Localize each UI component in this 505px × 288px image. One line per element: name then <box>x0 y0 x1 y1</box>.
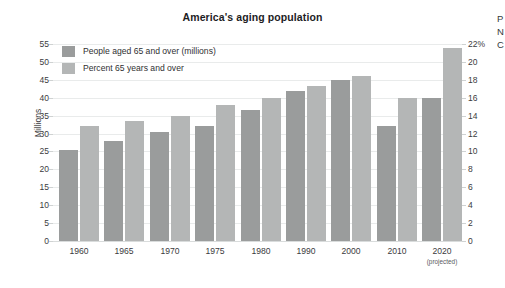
x-tick-year: 2020 <box>432 246 451 256</box>
bar-millions <box>422 98 441 241</box>
y-tick-left: 10 <box>25 201 49 209</box>
chart-legend: People aged 65 and over (millions) Perce… <box>62 44 216 78</box>
y-tick-right: 20 <box>468 58 498 66</box>
y-tick-left: 50 <box>25 58 49 66</box>
y-tick-left: 5 <box>25 219 49 227</box>
bar-group <box>422 44 462 241</box>
bar-millions <box>286 91 305 241</box>
y-tick-left: 15 <box>25 183 49 191</box>
y-tick-mark-right <box>462 80 466 81</box>
x-tick-label: 2020(projected) <box>407 246 477 267</box>
y-tick-left: 30 <box>25 130 49 138</box>
y-tick-right: 14 <box>468 112 498 120</box>
y-tick-left: 20 <box>25 165 49 173</box>
chart-title: America's aging population <box>0 11 505 23</box>
y-tick-mark-right <box>462 151 466 152</box>
y-tick-mark-right <box>462 44 466 45</box>
clipped-caption-line-1: P <box>497 12 505 25</box>
y-tick-mark-right <box>462 62 466 63</box>
clipped-caption-line-3: C <box>497 38 505 51</box>
y-tick-left: 0 <box>25 237 49 245</box>
x-tick-year: 1965 <box>114 246 133 256</box>
y-tick-right: 10 <box>468 147 498 155</box>
legend-label-millions: People aged 65 and over (millions) <box>83 46 216 57</box>
y-tick-mark-left <box>49 169 53 170</box>
x-tick-year: 1960 <box>69 246 88 256</box>
y-tick-right: 6 <box>468 183 498 191</box>
legend-item: Percent 65 years and over <box>62 61 216 76</box>
bar-millions <box>241 110 260 241</box>
x-tick-year: 1980 <box>251 246 270 256</box>
legend-label-percent: Percent 65 years and over <box>83 63 184 74</box>
bar-percent <box>262 98 281 241</box>
x-tick-year: 1990 <box>296 246 315 256</box>
y-tick-mark-right <box>462 187 466 188</box>
bar-percent <box>125 121 144 241</box>
bar-percent <box>398 98 417 241</box>
bar-percent <box>352 76 371 241</box>
y-tick-right: 8 <box>468 165 498 173</box>
x-tick-note: (projected) <box>407 257 477 267</box>
legend-swatch-percent <box>62 63 75 74</box>
y-tick-right: 12 <box>468 130 498 138</box>
bar-percent <box>443 48 462 241</box>
bar-millions <box>331 80 350 241</box>
gridline <box>53 241 462 242</box>
bar-millions <box>377 126 396 241</box>
y-tick-mark-left <box>49 187 53 188</box>
bar-percent <box>80 126 99 241</box>
y-tick-mark-left <box>49 151 53 152</box>
y-tick-mark-right <box>462 116 466 117</box>
bar-percent <box>307 86 326 241</box>
bar-millions <box>150 132 169 241</box>
x-tick-year: 2000 <box>341 246 360 256</box>
y-tick-right: 2 <box>468 219 498 227</box>
y-tick-mark-left <box>49 98 53 99</box>
y-tick-mark-left <box>49 116 53 117</box>
chart-figure: America's aging population Millions Peop… <box>0 0 505 288</box>
y-tick-mark-left <box>49 80 53 81</box>
x-tick-year: 2010 <box>387 246 406 256</box>
y-tick-mark-left <box>49 62 53 63</box>
y-tick-left: 55 <box>25 40 49 48</box>
bar-millions <box>195 126 214 241</box>
bar-group <box>377 44 417 241</box>
bar-group <box>331 44 371 241</box>
y-tick-mark-right <box>462 205 466 206</box>
x-tick-year: 1975 <box>205 246 224 256</box>
y-tick-mark-left <box>49 241 53 242</box>
bar-millions <box>59 150 78 241</box>
y-tick-mark-right <box>462 134 466 135</box>
y-tick-mark-left <box>49 205 53 206</box>
legend-swatch-millions <box>62 46 75 57</box>
y-tick-mark-left <box>49 223 53 224</box>
y-tick-right: 16 <box>468 94 498 102</box>
legend-item: People aged 65 and over (millions) <box>62 44 216 59</box>
clipped-right-caption: P N C <box>497 12 505 51</box>
bar-group <box>286 44 326 241</box>
y-tick-left: 45 <box>25 76 49 84</box>
y-tick-left: 40 <box>25 94 49 102</box>
y-tick-right: 22% <box>468 40 498 48</box>
y-tick-right: 0 <box>468 237 498 245</box>
y-tick-mark-right <box>462 241 466 242</box>
y-tick-left: 35 <box>25 112 49 120</box>
clipped-caption-line-2: N <box>497 25 505 38</box>
y-tick-mark-right <box>462 98 466 99</box>
y-tick-mark-left <box>49 134 53 135</box>
y-tick-mark-right <box>462 223 466 224</box>
x-tick-year: 1970 <box>160 246 179 256</box>
y-tick-mark-right <box>462 169 466 170</box>
bar-percent <box>171 116 190 241</box>
y-tick-left: 25 <box>25 147 49 155</box>
y-tick-right: 4 <box>468 201 498 209</box>
y-tick-mark-left <box>49 44 53 45</box>
y-tick-right: 18 <box>468 76 498 84</box>
bar-percent <box>216 105 235 241</box>
bar-millions <box>104 141 123 241</box>
bar-group <box>241 44 281 241</box>
